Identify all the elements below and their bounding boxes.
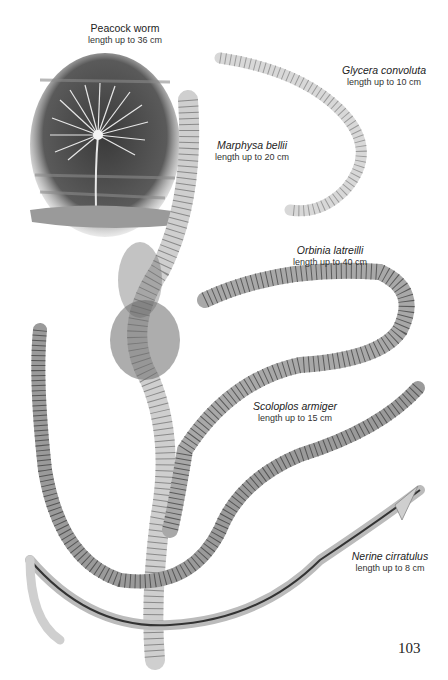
worm-illustrations (0, 0, 448, 680)
species-label-marphysa-bellii: Marphysa bellii length up to 20 cm (210, 139, 294, 162)
field-guide-page: Peacock worm length up to 36 cm Glycera … (0, 0, 448, 680)
species-length: length up to 8 cm (335, 563, 445, 574)
species-label-peacock-worm: Peacock worm length up to 36 cm (55, 22, 195, 45)
species-length: length up to 36 cm (55, 35, 195, 46)
species-length: length up to 10 cm (320, 77, 448, 88)
species-length: length up to 20 cm (210, 152, 294, 163)
species-label-glycera-convoluta: Glycera convoluta length up to 10 cm (320, 64, 448, 87)
species-name: Glycera convoluta (320, 64, 448, 77)
species-length: length up to 40 cm (275, 257, 385, 268)
species-name: Peacock worm (55, 22, 195, 35)
peacock-worm-illustration (30, 53, 180, 237)
species-name: Marphysa bellii (210, 139, 294, 152)
species-label-nerine-cirratulus: Nerine cirratulus length up to 8 cm (335, 550, 445, 573)
species-name: Nerine cirratulus (335, 550, 445, 563)
page-number: 103 (398, 640, 421, 657)
scoloplos-armiger-illustration (38, 330, 418, 581)
species-length: length up to 15 cm (240, 413, 350, 424)
species-label-orbinia-latreilli: Orbinia latreilli length up to 40 cm (275, 244, 385, 267)
species-label-scoloplos-armiger: Scoloplos armiger length up to 15 cm (240, 400, 350, 423)
species-name: Scoloplos armiger (240, 400, 350, 413)
species-name: Orbinia latreilli (275, 244, 385, 257)
